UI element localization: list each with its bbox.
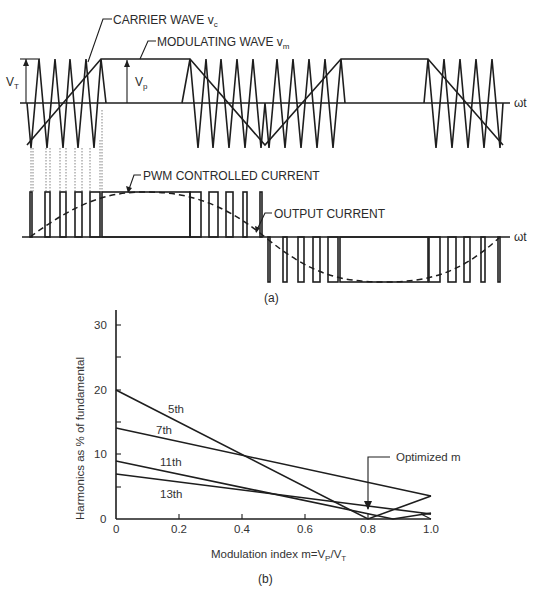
optimized-m-label: Optimized m — [396, 451, 461, 463]
carrier-leader-line — [88, 19, 112, 62]
label-7th: 7th — [156, 424, 172, 436]
vt-arrow-icon — [23, 59, 29, 66]
svg-text:20: 20 — [94, 384, 107, 396]
x-axis-label: Modulation index m=VP/VT — [211, 548, 346, 563]
pwm-current-label: PWM CONTROLLED CURRENT — [143, 169, 320, 183]
svg-text:0.8: 0.8 — [360, 523, 376, 535]
label-11th: 11th — [160, 456, 182, 468]
x-ticks: 0 0.2 0.4 0.6 0.8 1.0 — [113, 514, 439, 535]
y-ticks: 0 10 20 30 — [94, 319, 121, 525]
svg-text:10: 10 — [94, 448, 107, 460]
svg-text:0.6: 0.6 — [297, 523, 313, 535]
vp-arrow-icon — [124, 60, 130, 67]
label-13th: 13th — [160, 488, 182, 500]
output-current-label: OUTPUT CURRENT — [274, 207, 386, 221]
negative-pulses — [268, 237, 500, 282]
svg-text:1.0: 1.0 — [423, 523, 439, 535]
omega-t-label-bottom: ωt — [514, 230, 527, 244]
carrier-modulating-waveform: VT Vp CARRIER WAVE vc MODULATING WAVE vm… — [6, 13, 527, 148]
caption-a: (a) — [264, 291, 279, 305]
svg-text:0: 0 — [113, 523, 119, 535]
label-5th: 5th — [168, 403, 184, 415]
carrier-wave-label: CARRIER WAVE vc — [113, 13, 218, 29]
y-axis-label: Harmonics as % of fundamental — [74, 357, 86, 520]
svg-text:0.4: 0.4 — [234, 523, 251, 535]
svg-text:0: 0 — [100, 513, 106, 525]
vt-label: VT — [6, 75, 19, 91]
harmonics-chart: 0 10 20 30 0 0.2 0.4 0.6 0.8 1.0 5th 7th… — [74, 310, 461, 586]
pwm-current-waveform: PWM CONTROLLED CURRENT OUTPUT CURRENT ωt… — [22, 169, 527, 305]
caption-b: (b) — [258, 572, 273, 586]
vp-label: Vp — [135, 75, 148, 91]
modulating-wave-label: MODULATING WAVE vm — [157, 35, 290, 51]
modulating-leader-line — [140, 41, 156, 59]
pwm-figure: VT Vp CARRIER WAVE vc MODULATING WAVE vm… — [0, 0, 538, 592]
omega-t-label-top: ωt — [514, 96, 527, 110]
svg-text:30: 30 — [94, 319, 107, 331]
svg-text:0.2: 0.2 — [171, 523, 187, 535]
